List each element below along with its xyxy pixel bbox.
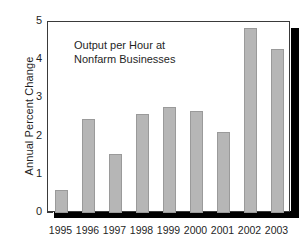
bar [190,111,204,213]
plot-shadow-right [291,28,299,218]
bar [217,132,231,213]
x-axis-tick-label: 2003 [260,224,294,236]
bar [136,114,150,213]
bar [109,154,123,213]
bar-chart-figure: Annual Percent Change 012345 Output per … [0,0,308,248]
bar [271,49,285,213]
y-axis-tick-label: 1 [0,167,42,179]
y-axis-tick-label: 3 [0,90,42,102]
bar [55,190,69,213]
y-axis-tick-label: 5 [0,14,42,26]
y-axis-tick-label: 2 [0,129,42,141]
y-axis-tick-label: 4 [0,52,42,64]
y-axis-title: Annual Percent Change [23,21,35,211]
y-axis-tick-label: 0 [0,205,42,217]
annotation-line-2: Nonfarm Businesses [74,52,176,66]
y-axis-tick [47,212,53,213]
bar [163,107,177,213]
bar [82,119,96,213]
annotation-line-1: Output per Hour at [74,38,176,52]
chart-annotation: Output per Hour at Nonfarm Businesses [74,38,176,66]
bar [244,28,258,213]
